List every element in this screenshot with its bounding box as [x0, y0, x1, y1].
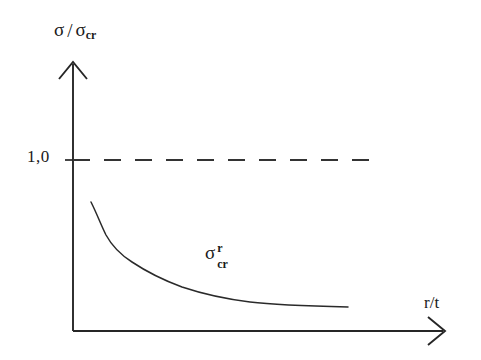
x-axis-label: r/t	[424, 294, 439, 311]
y-axis-label-separator: /	[64, 21, 75, 40]
curve-label: σrcr	[205, 243, 215, 262]
curve-label-subscript: cr	[217, 258, 228, 270]
y-axis-label-denominator: σ	[76, 19, 86, 40]
figure-root: σ/σcr 1,0 σrcr r/t	[0, 0, 481, 360]
chart-canvas	[0, 0, 481, 360]
y-axis-label-denominator-subscript: cr	[86, 29, 96, 42]
curve-label-superscript: r	[217, 242, 222, 254]
y-tick-label: 1,0	[27, 148, 50, 165]
curve-label-base: σ	[205, 242, 215, 263]
y-axis-label: σ/σcr	[54, 20, 96, 39]
y-axis-label-numerator: σ	[54, 19, 64, 40]
